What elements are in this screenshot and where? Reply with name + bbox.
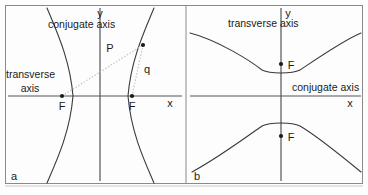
panel-b-focus-top-dot [279, 62, 283, 66]
panel-a-focus-left-dot [60, 94, 64, 98]
panel-b-x-axis-label: x [347, 97, 353, 109]
panel-a-transverse-axis-label-line2: axis [21, 82, 40, 94]
panel-a-conjugate-axis-label: conjugate axis [48, 18, 115, 30]
panel-b-upper-branch [190, 33, 361, 73]
panel-a-point-p-dot [141, 43, 145, 47]
panel-b-caption: b [194, 170, 200, 182]
panel-b-focus-bottom-label: F [288, 131, 295, 143]
panel-a-transverse-axis-label-line1: transverse [6, 68, 55, 80]
panel-b-lower-branch [192, 123, 361, 172]
panel-a-focus-right-label: F [129, 100, 136, 112]
figure-canvas: y x conjugate axis transverse axis P q F… [0, 0, 368, 195]
panel-a-caption: a [11, 170, 18, 182]
panel-b-conjugate-axis-label: conjugate axis [292, 81, 359, 93]
panel-b: y x transverse axis conjugate axis F F b [190, 7, 361, 182]
panel-a-focus-left-label: F [59, 100, 66, 112]
panel-a-focal-radius-p [62, 45, 143, 96]
panel-b-focus-bottom-dot [279, 134, 283, 138]
panel-a-focal-radius-q [132, 45, 143, 96]
panel-b-focus-top-label: F [288, 59, 295, 71]
hyperbola-figure: y x conjugate axis transverse axis P q F… [0, 0, 368, 195]
panel-a-point-p-label: P [106, 42, 113, 54]
panel-b-transverse-axis-label: transverse axis [228, 17, 299, 29]
panel-a-segment-q-label: q [144, 63, 150, 75]
panel-a-focus-right-dot [130, 94, 134, 98]
figure-frame [6, 6, 363, 184]
panel-a-x-axis-label: x [167, 97, 173, 109]
panel-a: y x conjugate axis transverse axis P q F… [6, 7, 182, 183]
